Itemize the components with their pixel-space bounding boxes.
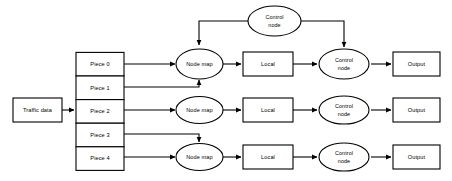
control-node-2[interactable]: Control node — [319, 96, 369, 124]
node-map-1[interactable]: Node map — [176, 49, 223, 79]
edge-topcontrol-to-control1 — [301, 21, 344, 47]
piece-row-4[interactable]: Piece 4 — [76, 147, 124, 171]
control-node-3-label-line2: node — [338, 158, 350, 164]
top-control-node-label-line1: Control — [265, 14, 283, 20]
node-map-2[interactable]: Node map — [176, 97, 223, 124]
edge-piece3-to-nodemap3 — [124, 134, 199, 142]
output-2[interactable]: Output — [393, 98, 440, 122]
output-3[interactable]: Output — [393, 145, 440, 169]
local-1-label: Local — [261, 61, 275, 67]
control-node-3[interactable]: Control node — [319, 143, 369, 171]
local-3-label: Local — [261, 154, 275, 160]
output-3-label: Output — [408, 154, 426, 160]
node-map-2-label: Node map — [186, 107, 213, 113]
top-control-node[interactable]: Control node — [248, 6, 301, 36]
output-2-label: Output — [408, 107, 426, 113]
local-3[interactable]: Local — [243, 145, 293, 169]
control-node-1-label-line2: node — [338, 65, 350, 71]
pieces-column: Piece 0 Piece 1 Piece 2 Piece 3 Piece 4 — [76, 52, 124, 170]
local-1[interactable]: Local — [243, 52, 293, 76]
piece-label-0: Piece 0 — [90, 61, 109, 67]
control-node-1[interactable]: Control node — [319, 49, 369, 79]
piece-label-1: Piece 1 — [90, 85, 109, 91]
local-2[interactable]: Local — [243, 98, 293, 122]
control-node-1-label-line1: Control — [335, 57, 353, 63]
piece-label-4: Piece 4 — [90, 155, 109, 161]
control-node-2-label-line2: node — [338, 111, 350, 117]
node-map-3-label: Node map — [186, 154, 213, 160]
piece-row-1[interactable]: Piece 1 — [76, 76, 124, 100]
piece-label-2: Piece 2 — [90, 108, 109, 114]
node-map-3[interactable]: Node map — [176, 144, 223, 171]
traffic-data-label: Traffic data — [23, 107, 53, 113]
flow-diagram: Traffic data Piece 0 Piece 1 Piece 2 Pie… — [0, 0, 452, 181]
edge-topcontrol-to-nodemap1 — [199, 21, 248, 45]
local-2-label: Local — [261, 107, 275, 113]
piece-label-3: Piece 3 — [90, 132, 109, 138]
traffic-data-node[interactable]: Traffic data — [13, 98, 62, 122]
control-node-2-label-line1: Control — [335, 103, 353, 109]
output-1-label: Output — [408, 61, 426, 67]
diagram-canvas: Traffic data Piece 0 Piece 1 Piece 2 Pie… — [0, 0, 452, 181]
control-node-3-label-line1: Control — [335, 150, 353, 156]
edge-piece1-to-nodemap1 — [124, 80, 199, 87]
node-map-1-label: Node map — [186, 61, 213, 67]
piece-row-0[interactable]: Piece 0 — [76, 52, 124, 76]
piece-row-3[interactable]: Piece 3 — [76, 123, 124, 147]
piece-row-2[interactable]: Piece 2 — [76, 100, 124, 124]
output-1[interactable]: Output — [393, 52, 440, 76]
top-control-node-label-line2: node — [268, 22, 280, 28]
